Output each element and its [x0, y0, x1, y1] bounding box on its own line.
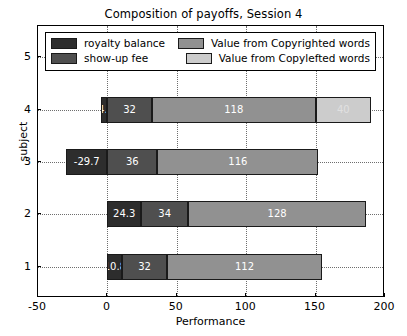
- legend-label: show-up fee: [84, 53, 148, 64]
- x-tick-label: 200: [374, 300, 395, 313]
- legend-swatch-icon: [51, 38, 77, 49]
- bar-value-label: 40: [337, 105, 350, 115]
- x-tick-mark: [176, 293, 177, 297]
- legend-label: Value from Copyrighted words: [211, 38, 370, 49]
- legend-entry-copylefted: Value from Copylefted words: [186, 53, 370, 64]
- bar-group: 24.334128: [38, 201, 383, 227]
- bar-value-label: 36: [126, 157, 139, 167]
- x-tick-label: 50: [169, 300, 183, 313]
- x-tick-label: 150: [304, 300, 325, 313]
- legend-label: royalty balance: [84, 38, 165, 49]
- bar-segment: 40: [316, 97, 372, 123]
- y-tick-label: 5: [1, 50, 31, 63]
- bar-segment: 32: [122, 254, 166, 280]
- chart-figure: Composition of payoffs, Session 4 10.832…: [0, 0, 407, 336]
- bar-segment: 116: [157, 149, 318, 175]
- chart-legend: royalty balance Value from Copyrighted w…: [45, 32, 376, 71]
- bar-value-label: 32: [138, 262, 151, 272]
- bar-segment: 10.8: [107, 254, 122, 280]
- y-tick-mark: [37, 161, 41, 162]
- legend-row: royalty balance Value from Copyrighted w…: [51, 36, 370, 51]
- bar-value-label: 128: [268, 209, 287, 219]
- bar-value-label: 24.3: [113, 209, 135, 219]
- legend-swatch-icon: [51, 53, 77, 64]
- y-tick-label: 3: [1, 155, 31, 168]
- bar-value-label: 118: [224, 105, 243, 115]
- x-tick-mark: [37, 293, 38, 297]
- x-tick-mark: [245, 293, 246, 297]
- y-tick-mark: [37, 56, 41, 57]
- x-tick-mark: [315, 293, 316, 297]
- legend-label: Value from Copylefted words: [219, 53, 370, 64]
- bar-segment: 128: [188, 201, 366, 227]
- y-tick-label: 1: [1, 259, 31, 272]
- legend-row: show-up fee Value from Copylefted words: [51, 51, 370, 66]
- bar-group: -29.736116: [38, 149, 383, 175]
- x-tick-label: -50: [28, 300, 46, 313]
- bar-segment: 34: [141, 201, 188, 227]
- legend-entry-royalty-balance: royalty balance: [51, 38, 178, 49]
- legend-entry-copyrighted: Value from Copyrighted words: [178, 38, 370, 49]
- legend-entry-show-up-fee: show-up fee: [51, 53, 186, 64]
- bar-value-label: 34: [158, 209, 171, 219]
- bar-value-label: 32: [123, 105, 136, 115]
- y-tick-label: 4: [1, 102, 31, 115]
- x-tick-mark: [384, 293, 385, 297]
- bar-value-label: 10.8: [107, 262, 122, 272]
- bar-segment: 118: [152, 97, 316, 123]
- chart-title: Composition of payoffs, Session 4: [0, 7, 407, 21]
- x-axis-label: Performance: [37, 315, 384, 328]
- legend-swatch-icon: [178, 38, 204, 49]
- bar-segment: 32: [107, 97, 151, 123]
- y-tick-mark: [37, 109, 41, 110]
- bar-group: -4.53211840: [38, 97, 383, 123]
- y-tick-label: 2: [1, 207, 31, 220]
- bar-segment: 36: [107, 149, 157, 175]
- bar-segment: -29.7: [66, 149, 107, 175]
- bar-segment: 112: [167, 254, 322, 280]
- bar-segment: 24.3: [107, 201, 141, 227]
- bar-value-label: 116: [228, 157, 247, 167]
- bar-value-label: -29.7: [74, 157, 100, 167]
- x-tick-label: 0: [103, 300, 110, 313]
- legend-swatch-icon: [186, 53, 212, 64]
- x-tick-label: 100: [235, 300, 256, 313]
- bar-group: 10.832112: [38, 254, 383, 280]
- y-tick-mark: [37, 266, 41, 267]
- bar-value-label: 112: [235, 262, 254, 272]
- x-tick-mark: [106, 293, 107, 297]
- y-tick-mark: [37, 213, 41, 214]
